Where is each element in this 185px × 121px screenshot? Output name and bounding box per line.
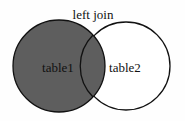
diagram-title: left join [73,7,114,22]
venn-diagram: left join table1 table2 [0,0,185,121]
table2-label: table2 [109,60,141,75]
venn-svg: left join table1 table2 [0,0,185,121]
table1-label: table1 [42,60,74,75]
